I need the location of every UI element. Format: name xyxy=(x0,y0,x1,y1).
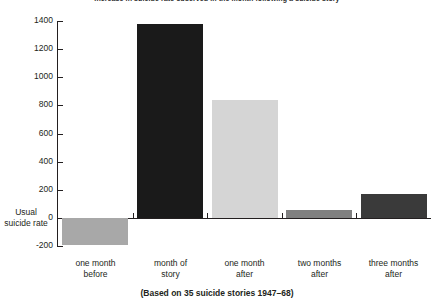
y-tick-mark xyxy=(57,190,63,191)
y-tick-mark xyxy=(57,246,63,247)
y-tick-label: 1000 xyxy=(34,72,53,81)
category-label: one monthbefore xyxy=(58,258,133,280)
category-tick-mark xyxy=(282,213,283,219)
category-label: two monthsafter xyxy=(282,258,357,280)
y-tick-label: 800 xyxy=(39,100,53,109)
y-tick-label: 400 xyxy=(39,157,53,166)
y-tick-mark xyxy=(57,49,63,50)
category-label-line: before xyxy=(58,269,133,280)
category-label: three monthsafter xyxy=(356,258,431,280)
category-label-line: one month xyxy=(207,258,282,269)
y-tick-label: -200 xyxy=(36,241,53,250)
bar xyxy=(361,194,427,218)
y-tick-label: 200 xyxy=(39,185,53,194)
bar-chart: Increase in suicide rate observed in the… xyxy=(0,0,434,303)
category-label-line: three months xyxy=(356,258,431,269)
category-label-line: story xyxy=(133,269,208,280)
category-tick-mark xyxy=(133,213,134,219)
category-tick-mark xyxy=(207,213,208,219)
y-tick-mark xyxy=(57,77,63,78)
y-tick-label: 600 xyxy=(39,129,53,138)
category-label-line: one month xyxy=(58,258,133,269)
y-tick-mark xyxy=(57,21,63,22)
usual-suicide-rate-label: Usualsuicide rate xyxy=(0,207,52,228)
category-label: one monthafter xyxy=(207,258,282,280)
bar xyxy=(212,100,278,218)
category-tick-mark xyxy=(356,213,357,219)
usual-rate-line: Usual xyxy=(0,207,52,218)
bar xyxy=(62,218,128,245)
y-tick-mark xyxy=(57,162,63,163)
y-tick-mark xyxy=(57,105,63,106)
category-label-line: after xyxy=(207,269,282,280)
chart-footnote: (Based on 35 suicide stories 1947–68) xyxy=(0,288,434,298)
category-label: month ofstory xyxy=(133,258,208,280)
y-tick-label: 1200 xyxy=(34,44,53,53)
usual-rate-line: suicide rate xyxy=(0,218,52,229)
chart-title: Increase in suicide rate observed in the… xyxy=(0,0,434,3)
category-label-line: month of xyxy=(133,258,208,269)
bar xyxy=(286,210,352,218)
bar xyxy=(137,24,203,218)
category-label-line: two months xyxy=(282,258,357,269)
y-tick-mark xyxy=(57,134,63,135)
y-tick-label: 1400 xyxy=(34,16,53,25)
category-label-line: after xyxy=(356,269,431,280)
category-label-line: after xyxy=(282,269,357,280)
